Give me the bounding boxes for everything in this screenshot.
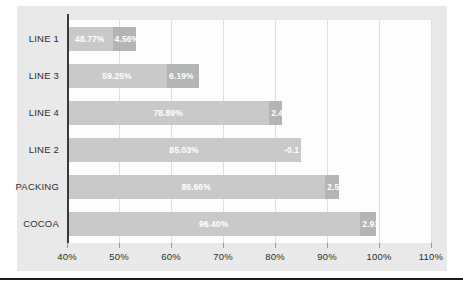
bar-segment-delta[interactable]: 6.19% bbox=[167, 64, 199, 88]
bar-label-delta: 2.58 bbox=[327, 182, 338, 192]
bar-label-delta: 6.19% bbox=[169, 71, 194, 81]
bar-row[interactable]: 78.89%2.44 bbox=[67, 101, 431, 125]
tick-mark bbox=[223, 243, 224, 248]
bar-label-delta: 2.93% bbox=[362, 219, 375, 229]
bar-segment-delta[interactable]: 4.56% bbox=[113, 27, 137, 51]
category-label: LINE 1 bbox=[29, 34, 59, 44]
bar-label-primary: 89.66% bbox=[181, 182, 210, 192]
bar-row[interactable]: 59.25%6.19% bbox=[67, 64, 431, 88]
bar-segment-primary[interactable]: 78.89% bbox=[67, 101, 269, 125]
plot-area bbox=[67, 20, 431, 243]
bar-label-primary: 78.89% bbox=[153, 108, 182, 118]
bottom-divider-rule bbox=[0, 278, 463, 280]
tick-mark bbox=[171, 243, 172, 248]
x-axis-tick-label: 90% bbox=[317, 251, 337, 262]
bar-label-delta: -0.1 bbox=[284, 145, 299, 155]
bar-segment-delta[interactable]: 2.93% bbox=[360, 212, 375, 236]
tick-mark bbox=[275, 243, 276, 248]
bar-row[interactable]: 96.40%2.93% bbox=[67, 212, 431, 236]
tick-mark bbox=[431, 243, 432, 248]
gridline bbox=[119, 20, 120, 243]
gridline bbox=[327, 20, 328, 243]
x-axis-tick-label: 50% bbox=[109, 251, 129, 262]
category-label: LINE 4 bbox=[29, 108, 59, 118]
tick-mark bbox=[379, 243, 380, 248]
category-label: LINE 2 bbox=[29, 145, 59, 155]
bar-segment-primary[interactable]: 59.25% bbox=[67, 64, 167, 88]
bar-label-primary: 48.77% bbox=[75, 34, 104, 44]
bar-row[interactable]: 89.66%2.58 bbox=[67, 175, 431, 199]
bar-label-primary: 85.03% bbox=[169, 145, 198, 155]
gridline bbox=[223, 20, 224, 243]
tick-mark bbox=[119, 243, 120, 248]
bar-row[interactable]: 85.03%-0.1 bbox=[67, 138, 431, 162]
bar-label-delta: 2.44 bbox=[271, 108, 282, 118]
x-axis-tick-label: 100% bbox=[366, 251, 391, 262]
category-axis-labels: LINE 1LINE 3LINE 4LINE 2PACKINGCOCOA bbox=[17, 20, 63, 243]
gridline bbox=[171, 20, 172, 243]
bar-segment-primary[interactable]: 89.66% bbox=[67, 175, 325, 199]
category-label: LINE 3 bbox=[29, 71, 59, 81]
bar-label-delta: 4.56% bbox=[115, 34, 137, 44]
x-axis-tick-label: 60% bbox=[161, 251, 181, 262]
bar-row[interactable]: 48.77%4.56% bbox=[67, 27, 431, 51]
chart-frame: LINE 1LINE 3LINE 4LINE 2PACKINGCOCOA 48.… bbox=[17, 6, 447, 271]
category-label: PACKING bbox=[16, 182, 59, 192]
gridline bbox=[431, 20, 432, 243]
category-label: COCOA bbox=[23, 219, 59, 229]
bar-segment-delta[interactable]: 2.44 bbox=[269, 101, 282, 125]
value-axis-line bbox=[67, 14, 69, 243]
x-axis-labels: 40%50%60%70%80%90%100%110% bbox=[67, 251, 431, 267]
x-axis-tick-label: 70% bbox=[213, 251, 233, 262]
gridline bbox=[379, 20, 380, 243]
gridline bbox=[275, 20, 276, 243]
x-axis-tick-label: 110% bbox=[419, 251, 443, 262]
bar-segment-primary[interactable]: 48.77% bbox=[67, 27, 113, 51]
x-axis-tick-label: 40% bbox=[57, 251, 77, 262]
x-axis-tick-label: 80% bbox=[265, 251, 285, 262]
bar-segment-delta[interactable]: 2.58 bbox=[325, 175, 338, 199]
bar-segment-primary[interactable]: 85.03% bbox=[67, 138, 301, 162]
tick-mark bbox=[327, 243, 328, 248]
tick-mark bbox=[67, 243, 68, 248]
bar-label-primary: 59.25% bbox=[102, 71, 131, 81]
bar-segment-primary[interactable]: 96.40% bbox=[67, 212, 360, 236]
bar-label-primary: 96.40% bbox=[199, 219, 228, 229]
